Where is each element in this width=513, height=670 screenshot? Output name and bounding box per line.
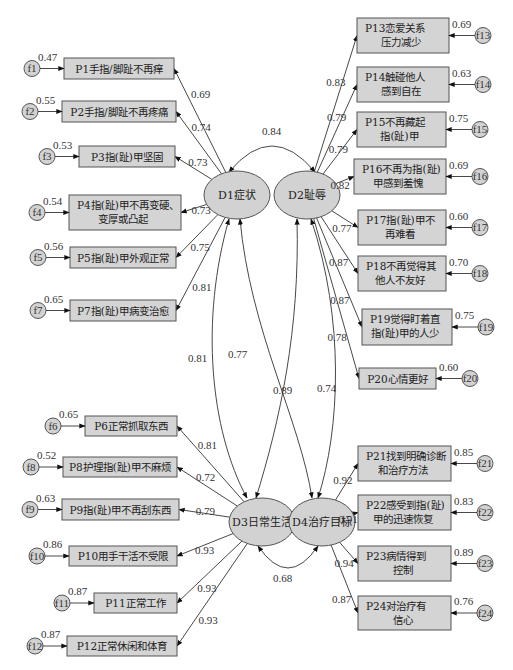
loading-path-p6 [177, 426, 244, 502]
error-label: f12 [28, 640, 43, 652]
indicator-label: P14触碰他人 [365, 71, 426, 83]
indicator-label: P16不再为指(趾) [362, 163, 441, 175]
indicator-p5: P5指(趾)甲外观正常f50.56 [30, 240, 176, 269]
error-term-f12: f120.87 [27, 628, 67, 654]
correlation-arc-d2-d3 [256, 219, 297, 498]
r-squared-value: 0.86 [43, 538, 63, 550]
error-term-f13: f130.69 [449, 18, 491, 44]
error-label: f22 [478, 506, 493, 518]
indicator-p14: P14触碰他人感到自在f140.63 [357, 67, 491, 103]
loading-value: 0.93 [199, 614, 219, 626]
loading-value: 0.81 [192, 281, 211, 293]
correlation-arc-d1-d2 [229, 146, 315, 172]
indicator-label: P8护理指(趾)甲不麻烦 [69, 461, 171, 473]
indicator-label: P3指(趾)甲坚固 [91, 151, 163, 163]
indicator-p8: P8护理指(趾)甲不麻烦f80.52 [23, 449, 177, 477]
error-term-f3: f30.53 [39, 139, 79, 165]
r-squared-value: 0.76 [454, 595, 474, 607]
correlation-value: 0.74 [317, 382, 337, 394]
loading-value: 0.75 [190, 241, 210, 253]
error-term-f21: f210.85 [451, 446, 493, 472]
error-label: f10 [30, 550, 45, 562]
r-squared-value: 0.60 [449, 210, 469, 222]
error-label: f11 [55, 597, 69, 609]
r-squared-value: 0.70 [449, 256, 469, 268]
r-squared-value: 0.69 [452, 18, 472, 30]
indicator-p15: P15不再藏起指(趾)甲f150.75 [357, 112, 488, 148]
loading-value: 0.87 [330, 294, 350, 306]
indicator-label: P2手指/脚趾不再疼痛 [70, 106, 167, 118]
correlation-arc-d1-d4 [240, 219, 312, 498]
indicator-label: 甲感到羞愧 [373, 177, 424, 189]
correlation-arc-d3-d4 [258, 546, 318, 568]
indicator-p17: P17指(趾)甲不再难看f170.60 [358, 210, 488, 246]
loading-value: 0.77 [332, 222, 352, 234]
error-label: f18 [473, 267, 488, 279]
indicator-label: P24对治疗有 [366, 600, 426, 612]
indicator-label: 指(趾)甲 [380, 130, 418, 142]
indicator-label: P5指(趾)甲外观正常 [77, 252, 169, 264]
indicator-p20: P20心情更好f200.60 [359, 361, 478, 390]
r-squared-value: 0.87 [41, 628, 61, 640]
indicator-p2: P2手指/脚趾不再疼痛f20.55 [22, 94, 176, 123]
r-squared-value: 0.75 [455, 309, 475, 321]
loading-value: 0.69 [191, 88, 211, 100]
loading-value: 0.79 [327, 111, 347, 123]
loading-path-p7 [176, 217, 225, 310]
error-label: f8 [26, 461, 36, 473]
correlation-value: 0.68 [273, 572, 293, 584]
indicator-p23: P23病情得到控制f230.89 [358, 546, 493, 582]
error-term-f10: f100.86 [29, 538, 69, 564]
indicator-label: P9指(趾)甲不再刮东西 [70, 504, 172, 516]
indicator-label: 信心 [393, 614, 414, 626]
indicator-label: 感到自在 [381, 85, 421, 97]
indicator-p18: P18不再觉得其他人不友好f180.70 [358, 256, 488, 292]
indicator-label: P4指(趾)甲不再变硬、 [77, 199, 179, 211]
latent-label: D1症状 [218, 188, 256, 202]
indicator-p3: P3指(趾)甲坚固f30.53 [39, 139, 175, 168]
indicator-p9: P9指(趾)甲不再刮东西f90.63 [22, 492, 179, 521]
error-term-f1: f10.47 [24, 51, 64, 77]
indicator-label: P15不再藏起 [365, 116, 426, 128]
error-label: f20 [463, 372, 478, 384]
r-squared-value: 0.69 [449, 159, 469, 171]
latent-label: D2耻辱 [288, 188, 326, 202]
sem-path-diagram: D1症状D2耻辱D3日常生活D4治疗目标P1手指/脚趾不再痒f10.47P2手指… [0, 0, 513, 670]
latent-d1: D1症状 [204, 171, 270, 219]
r-squared-value: 0.55 [36, 94, 56, 106]
correlation-value: 0.77 [228, 348, 248, 360]
error-label: f5 [33, 251, 43, 263]
indicator-label: P10用手干活不受限 [78, 550, 169, 562]
error-label: f14 [476, 78, 491, 90]
error-term-f4: f40.54 [29, 195, 69, 221]
error-term-f17: f170.60 [446, 210, 488, 236]
error-term-f8: f80.52 [23, 449, 63, 475]
indicator-p4: P4指(趾)甲不再变硬、变厚或凸起f40.54 [29, 195, 181, 231]
indicator-p22: P22感受到指(趾)甲的迅速恢复f220.83 [358, 495, 493, 531]
r-squared-value: 0.89 [454, 546, 474, 558]
indicator-label: P23病情得到 [366, 550, 426, 562]
indicator-p10: P10用手干活不受限f100.86 [29, 538, 177, 566]
indicator-label: 变厚或凸起 [98, 213, 149, 225]
error-label: f3 [42, 150, 52, 162]
error-label: f23 [478, 557, 493, 569]
loading-value: 0.91 [339, 513, 358, 525]
latent-d3: D3日常生活 [229, 498, 295, 546]
error-label: f13 [476, 29, 491, 41]
loading-value: 0.93 [197, 582, 217, 594]
r-squared-value: 0.47 [38, 51, 58, 63]
error-label: f16 [473, 170, 488, 182]
r-squared-value: 0.87 [68, 585, 88, 597]
loading-value: 0.79 [329, 143, 349, 155]
error-label: f9 [25, 503, 35, 515]
indicator-label: P20心情更好 [367, 373, 428, 385]
error-term-f15: f150.75 [446, 112, 488, 138]
loading-value: 0.93 [195, 544, 215, 556]
indicator-label: 和治疗方法 [378, 464, 428, 476]
indicator-label: P7指(趾)甲病变治愈 [77, 305, 170, 317]
r-squared-value: 0.53 [53, 139, 73, 151]
indicator-p11: P11正常工作f110.87 [54, 585, 177, 613]
indicator-p13: P13恋爱关系压力减少f130.69 [357, 18, 491, 54]
error-term-f20: f200.60 [436, 361, 478, 387]
latent-label: D3日常生活 [232, 515, 292, 529]
